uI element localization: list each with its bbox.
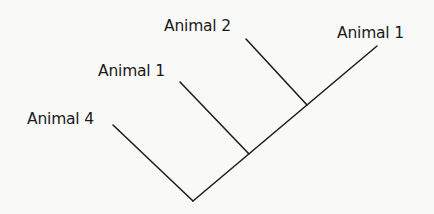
label-animal-4: Animal 4	[27, 112, 94, 128]
label-animal-1-right: Animal 1	[337, 26, 404, 42]
label-animal-1-mid: Animal 1	[98, 64, 165, 80]
cladogram-diagram: Animal 4 Animal 1 Animal 2 Animal 1	[0, 0, 434, 214]
branch-animal-2	[246, 39, 307, 105]
label-animal-2: Animal 2	[164, 19, 231, 35]
branch-animal-1-mid	[180, 82, 249, 154]
branch-animal-4	[113, 125, 193, 201]
